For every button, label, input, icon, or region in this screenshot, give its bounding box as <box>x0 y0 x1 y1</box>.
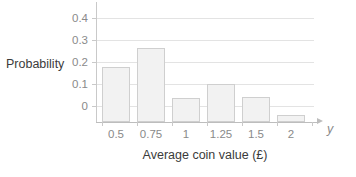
xtick-label-1.25: 1.25 <box>201 127 241 141</box>
ytick-label-0: 0 <box>60 100 88 112</box>
ytick-mark-0.4 <box>92 18 96 19</box>
xtick-mark-g <box>312 122 313 126</box>
bar-0.75 <box>137 48 165 122</box>
xtick-label-2: 2 <box>271 127 311 141</box>
xtick-mark-a <box>102 122 103 126</box>
ytick-mark-0.3 <box>92 40 96 41</box>
xtick-label-1: 1 <box>166 127 206 141</box>
xtick-mark-e <box>242 122 243 126</box>
gridline-0.4 <box>96 18 314 19</box>
plot-area <box>96 18 314 122</box>
ytick-label-0.3: 0.3 <box>60 34 88 46</box>
ytick-mark-0.2 <box>92 62 96 63</box>
xtick-mark-d <box>207 122 208 126</box>
gridline-0.2 <box>96 62 314 63</box>
xtick-label-0.5: 0.5 <box>96 127 136 141</box>
xtick-mark-c <box>172 122 173 126</box>
x-axis-title: Average coin value (£) <box>96 148 314 162</box>
ytick-label-0.4: 0.4 <box>60 12 88 24</box>
gridline-0.3 <box>96 40 314 41</box>
xtick-mark-b <box>137 122 138 126</box>
axis-variable-label: y <box>327 122 333 136</box>
bar-1.25 <box>207 84 235 123</box>
ytick-label-0.1: 0.1 <box>60 78 88 90</box>
xtick-label-1.5: 1.5 <box>236 127 276 141</box>
value-axis-line <box>96 2 97 123</box>
bar-1 <box>172 98 200 122</box>
y-axis-title: Probability <box>6 57 64 71</box>
ytick-mark-0.1 <box>92 84 96 85</box>
xtick-label-0.75: 0.75 <box>131 127 171 141</box>
axis-arrow-icon <box>317 118 323 124</box>
probability-bar-chart: 0.4 0.3 0.2 0.1 0 0.5 0.75 1 1.25 1.5 2 … <box>0 0 356 177</box>
bar-1.5 <box>242 97 270 122</box>
bar-0.5 <box>102 67 130 122</box>
bar-2 <box>277 115 305 122</box>
ytick-mark-0 <box>92 106 96 107</box>
xtick-mark-f <box>277 122 278 126</box>
